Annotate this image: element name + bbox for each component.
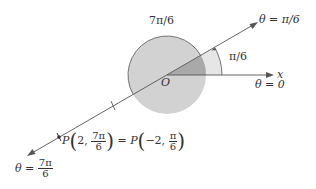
frac-den: 6 [96, 142, 102, 152]
theta-lhs: θ = [15, 162, 38, 175]
frac-num: π [169, 131, 178, 142]
ray-upper-arrowhead [250, 22, 259, 29]
label-7pi-6: 7π/6 [149, 14, 174, 27]
point-p2: P [130, 134, 137, 147]
p2-arg: −2, [145, 134, 168, 147]
fraction-7pi-6: 7π 6 [38, 158, 53, 179]
frac-num: 7π [91, 131, 106, 142]
equals-sign: = [114, 134, 130, 147]
label-point-equation: P(2, 7π6) = P(−2, π6) [62, 129, 185, 153]
label-origin: O [161, 76, 170, 89]
polar-diagram: 7π/6 θ = π/6 π/6 x θ = 0 O θ = 7π 6 P(2,… [0, 0, 316, 189]
label-angle-pi-6: π/6 [229, 50, 247, 63]
label-theta-0: θ = 0 [255, 78, 285, 91]
fraction-7pi-6-b: 7π6 [91, 131, 106, 152]
p1-arg: 2, [77, 134, 91, 147]
label-theta-7pi-6: θ = 7π 6 [15, 158, 53, 179]
ray-lower-arrowhead [27, 149, 36, 156]
fraction-pi-6: π6 [169, 131, 178, 152]
frac-den: 6 [42, 169, 48, 179]
frac-den: 6 [170, 142, 176, 152]
label-theta-pi-6: θ = π/6 [259, 13, 300, 26]
